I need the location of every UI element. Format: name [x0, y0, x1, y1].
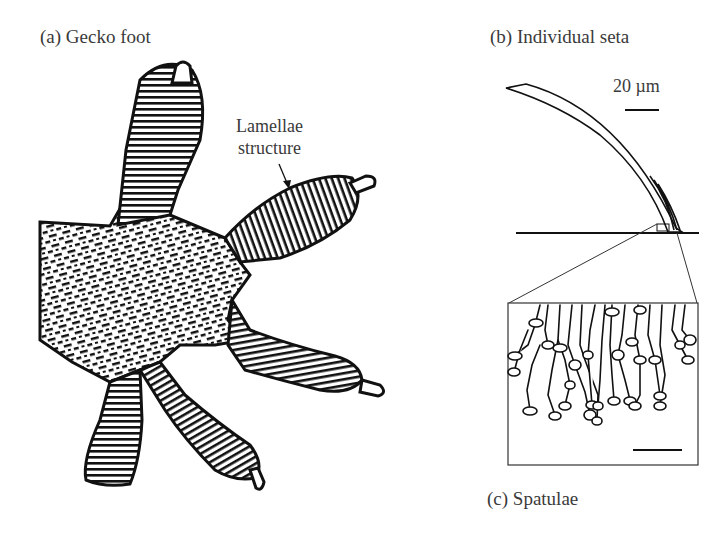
spatulae-illustration — [508, 303, 698, 465]
gecko-palm — [40, 200, 250, 382]
gecko-toe-upper-right — [225, 176, 358, 262]
lamellae-arrow — [279, 164, 287, 183]
gecko-claw-lower-right — [360, 380, 384, 396]
gecko-toe-lower-right — [228, 300, 362, 391]
gecko-claw-bottom-middle — [250, 468, 264, 489]
gecko-toe-bottom-middle — [140, 362, 259, 479]
zoom-line-left — [509, 224, 657, 303]
zoom-line-right — [677, 233, 697, 303]
gecko-toe-bottom-left — [85, 370, 142, 485]
gecko-toe-top — [118, 64, 203, 225]
gecko-foot-illustration — [40, 62, 384, 489]
seta-illustration — [506, 84, 699, 303]
seta-shaft — [506, 84, 682, 232]
figure-canvas — [0, 0, 726, 537]
gecko-claw-top — [172, 62, 192, 83]
